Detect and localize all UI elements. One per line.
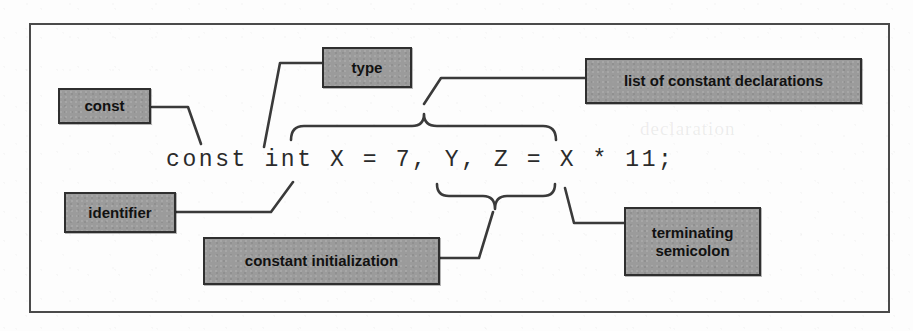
callout-terminating-semicolon: terminating semicolon (624, 207, 761, 276)
callout-type-label: type (352, 59, 383, 77)
code-sample: const int X = 7, Y, Z = X * 11; (166, 147, 674, 173)
callout-constant-initialization: constant initialization (203, 237, 440, 285)
callout-const: const (58, 88, 151, 124)
callout-list-of-constant-declarations: list of constant declarations (585, 58, 862, 104)
callout-list-label: list of constant declarations (624, 72, 823, 90)
callout-semicolon-label-line1: terminating (652, 224, 734, 242)
const-declaration-figure: constants declaration const int X = 7, Y… (0, 0, 913, 331)
callout-const-label: const (84, 97, 124, 115)
callout-type: type (322, 47, 412, 88)
callout-identifier-label: identifier (88, 204, 151, 222)
callout-semicolon-label-line2: semicolon (655, 242, 729, 260)
callout-identifier: identifier (64, 192, 176, 233)
callout-initialization-label: constant initialization (245, 252, 398, 270)
